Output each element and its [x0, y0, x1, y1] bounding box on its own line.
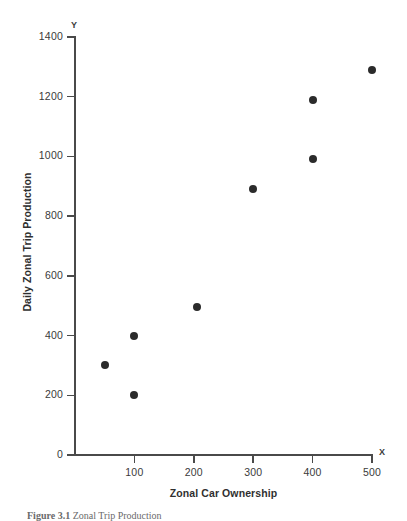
x-tick-label: 300 [228, 466, 278, 478]
y-tick-label: 200 [45, 388, 63, 400]
figure-number: Figure 3.1 [27, 510, 70, 521]
x-axis-title: Zonal Car Ownership [75, 487, 372, 499]
x-axis-letter: X [379, 447, 385, 457]
x-tick-label: 200 [169, 466, 219, 478]
y-tick-label: 0 [57, 448, 63, 460]
y-tick-label: 1200 [39, 90, 63, 102]
y-tick-label: 600 [45, 269, 63, 281]
figure-caption-text: Zonal Trip Production [73, 510, 162, 521]
plot-area [75, 37, 372, 455]
x-tick [193, 455, 195, 463]
y-tick [67, 156, 75, 158]
data-point [309, 155, 317, 163]
data-point [130, 332, 138, 340]
y-axis-letter: Y [71, 20, 77, 30]
data-point [130, 391, 138, 399]
x-tick-label: 400 [288, 466, 338, 478]
data-point [249, 185, 257, 193]
x-tick-label: 500 [347, 466, 397, 478]
figure-caption: Figure 3.1 Zonal Trip Production [27, 510, 387, 521]
y-tick [67, 275, 75, 277]
y-tick [67, 454, 75, 456]
y-tick [67, 36, 75, 38]
x-tick [134, 455, 136, 463]
y-tick [67, 215, 75, 217]
y-tick-label: 1000 [39, 149, 63, 161]
data-point [368, 66, 376, 74]
x-tick [371, 455, 373, 463]
y-tick-label: 800 [45, 209, 63, 221]
data-point [101, 361, 109, 369]
x-tick-label: 100 [109, 466, 159, 478]
y-tick-label: 400 [45, 329, 63, 341]
y-tick [67, 395, 75, 397]
data-point [309, 96, 317, 104]
y-tick-label: 1400 [39, 30, 63, 42]
y-tick [67, 96, 75, 98]
y-tick [67, 335, 75, 337]
data-point [193, 303, 201, 311]
x-tick [312, 455, 314, 463]
x-tick [252, 455, 254, 463]
y-axis-title: Daily Zonal Trip Production [21, 127, 33, 357]
